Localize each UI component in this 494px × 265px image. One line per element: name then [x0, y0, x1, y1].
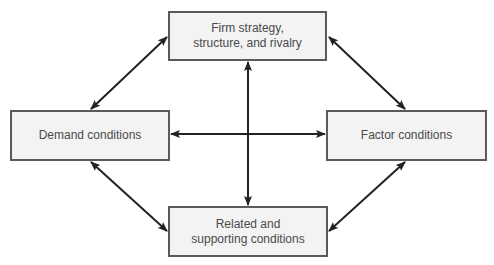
arrow-bottom-left: [91, 162, 167, 231]
node-related-supporting: Related and supporting conditions: [168, 206, 328, 257]
node-firm-strategy: Firm strategy, structure, and rivalry: [168, 11, 327, 61]
node-label: Demand conditions: [39, 128, 142, 143]
node-label: Factor conditions: [361, 128, 452, 143]
node-label: Firm strategy, structure, and rivalry: [193, 21, 302, 51]
node-label: Related and supporting conditions: [191, 217, 304, 247]
arrow-top-right: [329, 37, 405, 109]
porter-diamond-diagram: Firm strategy, structure, and rivalry De…: [0, 0, 494, 265]
arrow-bottom-right: [329, 162, 405, 231]
node-demand-conditions: Demand conditions: [10, 110, 170, 161]
arrow-top-left: [91, 37, 167, 109]
node-factor-conditions: Factor conditions: [326, 110, 487, 161]
